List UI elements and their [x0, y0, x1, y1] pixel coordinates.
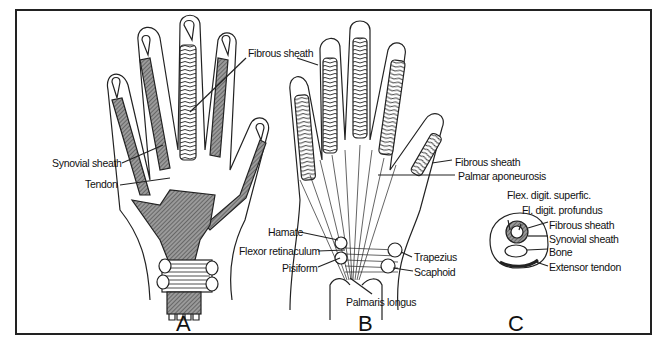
- label-extensor-tendon: Extensor tendon: [549, 261, 621, 273]
- panel-label-b: B: [358, 311, 373, 337]
- label-flexor-retinaculum: Flexor retinaculum: [239, 245, 320, 257]
- label-pisiform: Pisiform: [282, 262, 318, 274]
- label-tendon-a: Tendon: [85, 178, 118, 190]
- panel-c-drawing: [490, 213, 548, 268]
- hand-anatomy-drawing: [0, 0, 670, 349]
- label-fibrous-sheath-b: Fibrous sheath: [455, 156, 520, 168]
- label-fl-digit-profundus: Fl. digit. profundus: [522, 204, 602, 216]
- label-palmar-aponeurosis: Palmar aponeurosis: [458, 170, 546, 182]
- label-fibrous-sheath-a: Fibrous sheath: [248, 47, 313, 59]
- panel-a-drawing: [107, 15, 268, 320]
- panel-label-a: A: [176, 311, 191, 337]
- label-synovial-sheath-c: Synovial sheath: [549, 233, 619, 245]
- panel-label-c: C: [508, 311, 524, 337]
- label-palmaris-longus: Palmaris longus: [346, 296, 416, 308]
- label-fibrous-sheath-c: Fibrous sheath: [549, 219, 614, 231]
- label-bone: Bone: [549, 246, 572, 258]
- label-flex-digit-superfic: Flex. digit. superfic.: [507, 189, 591, 201]
- label-synovial-sheath-a: Synovial sheath: [52, 157, 122, 169]
- label-hamate: Hamate: [268, 226, 303, 238]
- label-scaphoid: Scaphoid: [414, 266, 455, 278]
- label-trapezius: Trapezius: [414, 251, 457, 263]
